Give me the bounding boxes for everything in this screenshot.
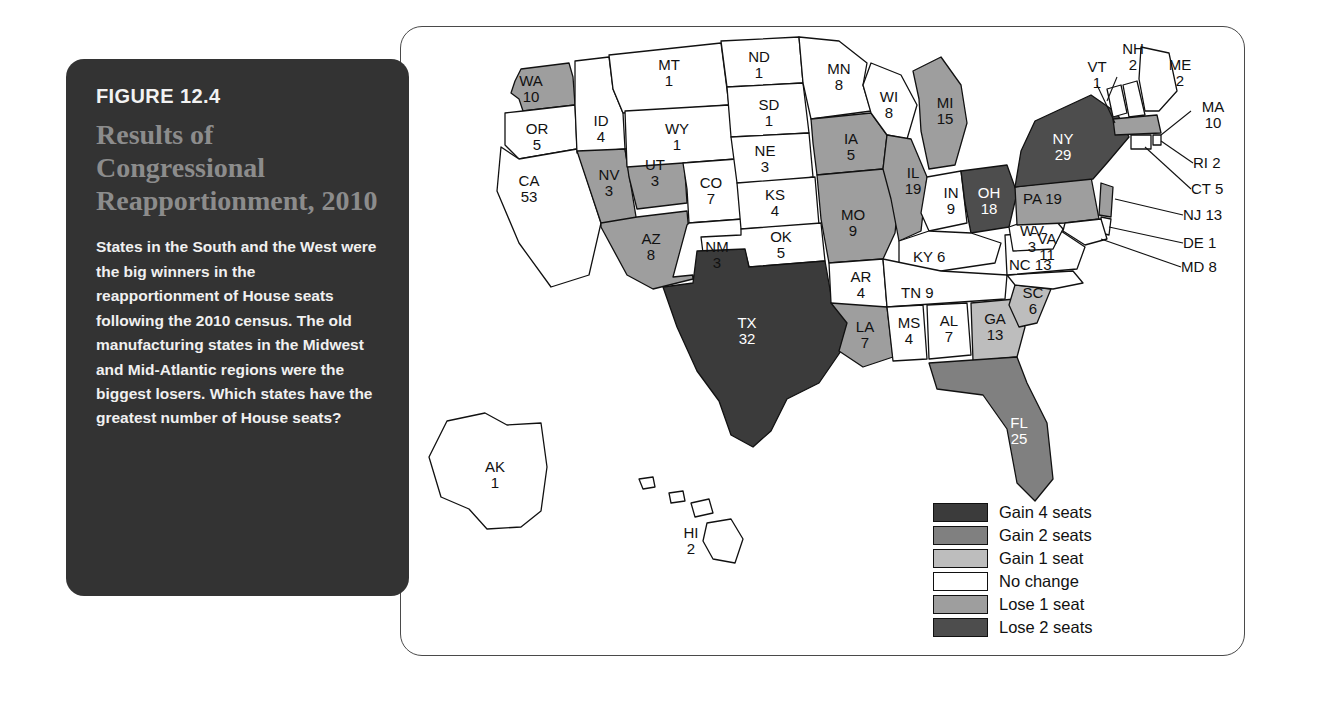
figure-caption-panel: FIGURE 12.4 Results of Congressional Rea… [66, 59, 409, 596]
state-shape-SD [727, 83, 809, 137]
state-shape-ME [1139, 47, 1177, 111]
state-shape-CO [683, 159, 743, 223]
figure-title: Results of Congressional Reapportionment… [96, 118, 381, 217]
figure-number: FIGURE 12.4 [96, 85, 381, 108]
state-shape-ND [721, 37, 803, 87]
state-shape-AK [429, 413, 547, 529]
legend-item: Gain 1 seat [933, 549, 1093, 568]
legend-swatch-gain-4-seats [933, 503, 988, 522]
legend-swatch-gain-2-seats [933, 526, 988, 545]
legend-swatch-gain-1-seat [933, 549, 988, 568]
state-shape-IA [811, 113, 887, 175]
state-shape-AL [927, 303, 971, 359]
state-shape-HI-4 [703, 519, 743, 563]
legend-item: Gain 4 seats [933, 503, 1093, 522]
state-shape-KS [737, 177, 819, 229]
state-shape-IN [921, 171, 967, 231]
figure-description: States in the South and the West were th… [96, 235, 381, 431]
legend-item: Lose 2 seats [933, 618, 1093, 637]
state-shape-MT [609, 43, 729, 113]
state-shape-MA [1113, 115, 1161, 135]
legend-item: Gain 2 seats [933, 526, 1093, 545]
legend-item: Lose 1 seat [933, 595, 1093, 614]
legend-label-lose-1-seat: Lose 1 seat [999, 595, 1084, 614]
state-shape-HI-1 [639, 477, 655, 489]
state-shape-OH [961, 165, 1017, 233]
map-legend: Gain 4 seats Gain 2 seats Gain 1 seat No… [933, 503, 1093, 641]
state-shape-FL [929, 357, 1053, 501]
legend-swatch-lose-1-seat [933, 595, 988, 614]
state-shape-WY [625, 105, 735, 167]
legend-label-gain-2-seats: Gain 2 seats [999, 526, 1092, 545]
us-map-svg [401, 27, 1244, 655]
legend-label-lose-2-seats: Lose 2 seats [999, 618, 1093, 637]
state-shape-MS [887, 305, 927, 361]
legend-swatch-lose-2-seats [933, 618, 988, 637]
state-shape-WA [511, 63, 575, 111]
legend-label-gain-4-seats: Gain 4 seats [999, 503, 1092, 522]
state-shape-MN [799, 37, 871, 119]
map-panel: WA10 OR5 CA53 ID4 NV3 UT3 AZ8 MT1 WY1 CO… [400, 26, 1245, 656]
legend-item: No change [933, 572, 1093, 591]
state-shape-AZ [601, 211, 693, 289]
state-shape-RI [1153, 135, 1161, 145]
legend-label-gain-1-seat: Gain 1 seat [999, 549, 1083, 568]
state-shape-CT [1131, 135, 1151, 149]
legend-label-no-change: No change [999, 572, 1079, 591]
state-shape-MI [913, 57, 967, 169]
legend-swatch-no-change [933, 572, 988, 591]
state-shape-NE [731, 133, 813, 183]
state-shape-HI-3 [691, 499, 713, 517]
state-shape-NJ [1099, 183, 1113, 217]
state-shape-HI-2 [669, 491, 685, 503]
